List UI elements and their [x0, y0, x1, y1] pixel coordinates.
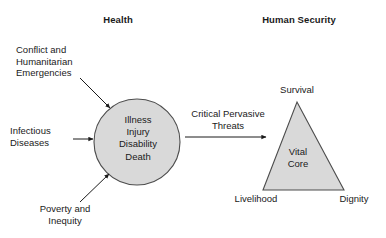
label-livelihood: Livelihood	[228, 193, 284, 205]
label-survival: Survival	[262, 84, 332, 96]
label-dignity: Dignity	[330, 193, 378, 205]
arrow-poverty-to-circle	[80, 174, 109, 202]
label-poverty-and-inequity: Poverty and Inequity	[26, 203, 104, 226]
arrow-conflict-to-circle	[80, 78, 110, 108]
label-illness-injury-disability-death: Illness Injury Disability Death	[100, 114, 176, 163]
label-infectious-diseases: Infectious Diseases	[10, 125, 72, 148]
label-critical-pervasive-threats: Critical Pervasive Threats	[182, 108, 274, 131]
label-vital-core: Vital Core	[272, 146, 324, 170]
heading-human-security: Human Security	[244, 14, 354, 26]
label-conflict-humanitarian-emergencies: Conflict and Humanitarian Emergencies	[16, 44, 106, 79]
heading-health: Health	[78, 14, 158, 26]
diagram-canvas: Health Human Security Conflict and Human…	[0, 0, 386, 238]
